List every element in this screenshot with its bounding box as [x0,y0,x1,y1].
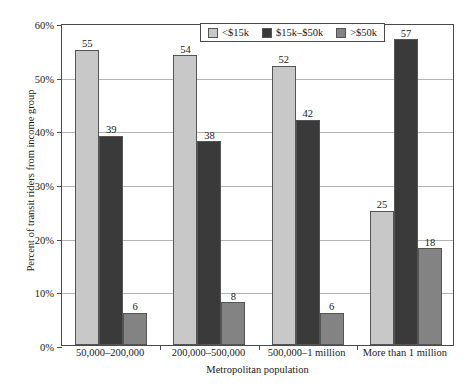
bar-value-label: 55 [82,39,93,50]
x-axis-category-label: 200,000–500,000 [159,347,257,358]
bar: 6 [123,313,147,345]
bar-value-label: 25 [377,200,388,211]
bar-value-label: 54 [180,45,191,56]
y-axis-tick [57,132,62,133]
bar-value-label: 57 [401,29,412,40]
y-axis-tick [57,240,62,241]
bar: 25 [370,211,394,345]
bar: 52 [272,66,296,345]
bar: 57 [394,39,418,345]
bar-value-label: 18 [425,238,436,249]
bar: 54 [173,55,197,345]
legend: <$15k$15k–$50k>$50k [200,23,385,42]
bar-value-label: 42 [302,109,313,120]
bar: 42 [296,120,320,345]
legend-item: >$50k [336,27,377,38]
bar: 39 [99,136,123,345]
bar-chart: Percent of transit riders from income gr… [0,0,466,387]
bar-value-label: 38 [204,131,215,142]
legend-swatch-icon [336,28,346,38]
y-axis-tick-label: 30% [35,181,54,192]
x-axis-category-label: More than 1 million [356,347,454,358]
legend-swatch-icon [262,28,272,38]
y-axis-tick-label: 0% [40,342,54,353]
bar: 38 [197,141,221,345]
y-axis-tick [57,186,62,187]
bar: 6 [320,313,344,345]
y-axis-tick-label: 20% [35,234,54,245]
bar: 18 [418,248,442,345]
y-axis-tick-label: 10% [35,288,54,299]
legend-swatch-icon [208,28,218,38]
bar: 55 [75,50,99,345]
bar-value-label: 8 [231,292,236,303]
bar-value-label: 6 [329,302,334,313]
legend-item-label: <$15k [222,27,249,38]
y-axis-tick [57,293,62,294]
bar-value-label: 52 [278,55,289,66]
y-axis-tick [57,25,62,26]
plot-area: 0%10%20%30%40%50%60%55396543885242625571… [61,24,454,346]
x-axis-category-label: 50,000–200,000 [61,347,159,358]
x-axis-title: Metropolitan population [61,364,454,375]
legend-item-label: $15k–$50k [276,27,323,38]
legend-item-label: >$50k [350,27,377,38]
bar-value-label: 6 [133,302,138,313]
bar-value-label: 39 [106,125,117,136]
legend-item: <$15k [208,27,249,38]
legend-item: $15k–$50k [262,27,323,38]
y-axis-tick-label: 50% [35,73,54,84]
y-axis-tick-label: 60% [35,20,54,31]
cut-off-caption-artifact [0,0,466,7]
bar: 8 [221,302,245,345]
y-axis-tick-label: 40% [35,127,54,138]
y-axis-tick [57,79,62,80]
x-axis-category-label: 500,000–1 million [258,347,356,358]
